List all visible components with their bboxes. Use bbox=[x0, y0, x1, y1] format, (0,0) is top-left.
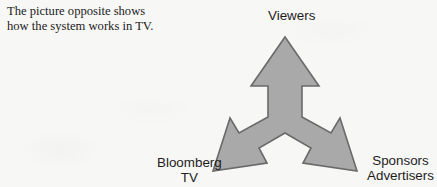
node-label-bloomberg-line-1: Bloomberg bbox=[157, 155, 222, 170]
node-label-viewers: Viewers bbox=[268, 8, 315, 23]
node-label-sponsors-advertisers: Sponsors Advertisers bbox=[367, 153, 434, 184]
node-label-bloomberg-line-2: TV bbox=[157, 170, 222, 185]
node-label-sponsors-line-2: Advertisers bbox=[367, 168, 434, 183]
node-label-viewers-text: Viewers bbox=[268, 8, 315, 23]
page-root: The picture opposite shows how the syste… bbox=[0, 0, 437, 187]
tri-directional-arrow-icon bbox=[213, 37, 357, 171]
node-label-sponsors-line-1: Sponsors bbox=[367, 153, 434, 168]
node-label-bloomberg-tv: Bloomberg TV bbox=[157, 155, 222, 186]
